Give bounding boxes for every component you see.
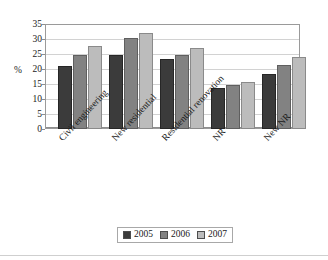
legend: 2005 2006 2007 [117, 227, 233, 243]
bar-2007-nr [241, 82, 255, 129]
page-divider [0, 255, 328, 256]
legend-label: 2005 [134, 230, 153, 240]
legend-swatch-icon [123, 231, 131, 239]
bar-2006-nr [226, 85, 240, 129]
y-tick-label: 10 [18, 95, 42, 105]
y-axis-title: % [14, 66, 22, 76]
category-labels: Civil engineering New residential Reside… [0, 129, 328, 224]
y-tick-label: 15 [18, 80, 42, 90]
legend-label: 2007 [208, 230, 227, 240]
category-label-nr: NR [211, 126, 227, 142]
legend-swatch-icon [160, 231, 168, 239]
legend-item-2006: 2006 [160, 230, 190, 240]
y-tick-label: 35 [18, 20, 42, 30]
bar-chart-figure: 35 30 25 20 15 10 5 0 % [0, 0, 328, 260]
bar-2007-civil-engineering [88, 46, 102, 129]
bar-2005-nr [211, 88, 225, 129]
bar-2005-residential-renovation [160, 59, 174, 129]
legend-item-2005: 2005 [123, 230, 153, 240]
y-tick-label: 25 [18, 50, 42, 60]
bar-2005-civil-engineering [58, 66, 72, 129]
y-axis: 35 30 25 20 15 10 5 0 [18, 18, 45, 135]
bar-2005-new-nr [262, 74, 276, 129]
legend-swatch-icon [197, 231, 205, 239]
bar-2007-residential-renovation [190, 48, 204, 129]
y-tick-label: 5 [18, 110, 42, 120]
y-tick-label: 30 [18, 35, 42, 45]
bar-2005-new-residential [109, 55, 123, 129]
bar-2007-new-nr [292, 57, 306, 129]
legend-label: 2006 [171, 230, 190, 240]
legend-item-2007: 2007 [197, 230, 227, 240]
